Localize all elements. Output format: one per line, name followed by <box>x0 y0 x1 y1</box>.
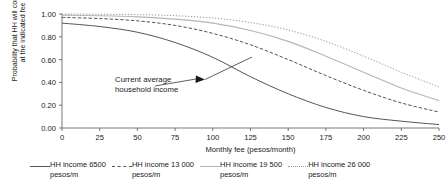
data-series-group <box>62 14 439 125</box>
legend-label: HH income 6500 pesos/m <box>50 160 106 179</box>
series-line-1 <box>62 23 439 124</box>
y-tick-label: 0.40 <box>41 78 56 87</box>
legend-line-swatch-icon <box>200 162 220 171</box>
x-tick-label: 150 <box>282 133 295 142</box>
x-axis-title: Monthly fee (pesos/month) <box>62 145 439 154</box>
legend-entry-3[interactable]: HH income 19 500 pesos/m <box>200 160 282 195</box>
x-tick-label: 50 <box>133 133 141 142</box>
y-tick-label: 0.00 <box>41 124 56 133</box>
annotation-line2: household income <box>115 85 178 94</box>
x-tick-label: 75 <box>171 133 179 142</box>
x-tick-label: 0 <box>60 133 64 142</box>
annotation-line1: Current average <box>115 75 171 84</box>
x-tick-label: 200 <box>357 133 370 142</box>
legend-label: HH income 13 000 pesos/m <box>132 160 194 179</box>
y-tick-label: 0.20 <box>41 101 56 110</box>
series-line-2 <box>62 17 439 112</box>
legend-line-swatch-icon <box>30 162 50 171</box>
x-tick-label: 225 <box>395 133 408 142</box>
y-tick-label: 0.60 <box>41 56 56 65</box>
legend-line-swatch-icon <box>288 162 308 171</box>
y-tick-label: 0.80 <box>41 33 56 42</box>
y-tick-label: 1.00 <box>41 10 56 19</box>
x-tick-label: 25 <box>95 133 103 142</box>
chart-legend: HH income 6500 pesos/mHH income 13 000 p… <box>0 160 447 195</box>
legend-entry-2[interactable]: HH income 13 000 pesos/m <box>112 160 194 195</box>
legend-label: HH income 26 000 pesos/m <box>308 160 370 179</box>
x-tick-group: 0255075100125150175200225250 <box>60 128 445 142</box>
legend-line-swatch-icon <box>112 162 132 171</box>
x-tick-label: 100 <box>206 133 219 142</box>
chart-figure: Probability that HH will connect at the … <box>0 0 447 195</box>
x-tick-label: 250 <box>433 133 446 142</box>
legend-label: HH income 19 500 pesos/m <box>220 160 282 179</box>
axes-group: 0.000.200.400.600.801.00 025507510012515… <box>41 10 445 142</box>
legend-entry-4[interactable]: HH income 26 000 pesos/m <box>288 160 370 195</box>
y-tick-group: 0.000.200.400.600.801.00 <box>41 10 62 133</box>
x-tick-label: 175 <box>320 133 333 142</box>
x-tick-label: 125 <box>244 133 257 142</box>
legend-entry-1[interactable]: HH income 6500 pesos/m <box>30 160 106 195</box>
